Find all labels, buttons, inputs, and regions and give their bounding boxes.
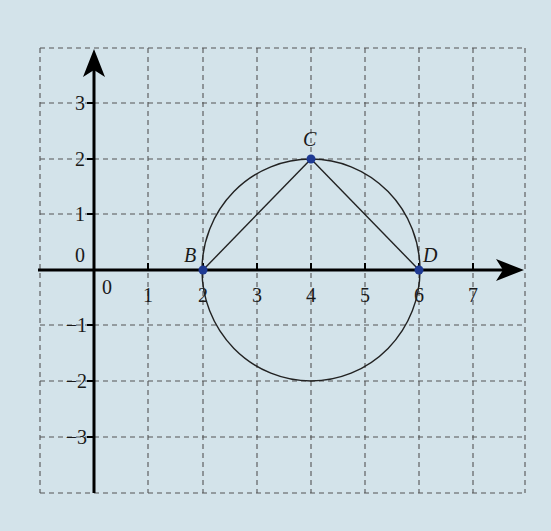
x-tick-4: 4 bbox=[306, 284, 316, 306]
y-tick-3: 3 bbox=[75, 92, 85, 114]
origin-label-x: 0 bbox=[102, 276, 112, 298]
origin-label-y: 0 bbox=[75, 244, 85, 266]
y-tick-neg1: −1 bbox=[66, 314, 87, 336]
point-d bbox=[415, 266, 424, 275]
coordinate-diagram: 0 1 2 3 4 5 6 7 3 2 1 0 −1 −2 −3 B C D bbox=[0, 0, 551, 531]
y-tick-neg3: −3 bbox=[66, 426, 87, 448]
x-tick-3: 3 bbox=[252, 284, 262, 306]
label-b: B bbox=[184, 244, 196, 266]
x-tick-7: 7 bbox=[468, 284, 478, 306]
y-tick-1: 1 bbox=[75, 203, 85, 225]
x-tick-5: 5 bbox=[360, 284, 370, 306]
label-c: C bbox=[303, 128, 317, 150]
x-tick-1: 1 bbox=[143, 284, 153, 306]
point-c bbox=[307, 155, 316, 164]
point-b bbox=[199, 266, 208, 275]
label-d: D bbox=[422, 244, 438, 266]
x-tick-labels: 0 1 2 3 4 5 6 7 bbox=[102, 276, 478, 306]
y-tick-2: 2 bbox=[75, 148, 85, 170]
y-tick-neg2: −2 bbox=[66, 370, 87, 392]
